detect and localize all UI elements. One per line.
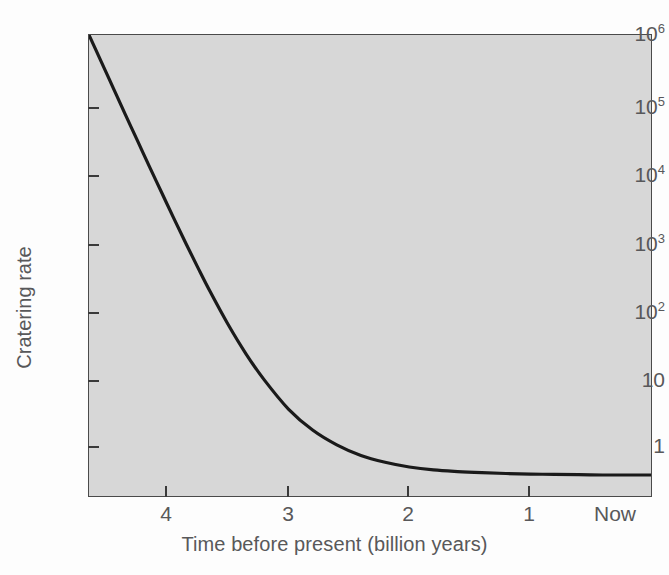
y-axis-title: Cratering rate [13, 198, 36, 418]
y-tick-label-1e2: 102 [585, 301, 669, 322]
y-tick-label-1e6: 106 [585, 23, 669, 44]
y-label-mantissa: 10 [634, 300, 657, 323]
y-label-exponent: 6 [658, 21, 665, 36]
y-tick-label-1e5: 105 [585, 96, 669, 117]
x-tick-label-3: 3 [282, 503, 294, 524]
x-tick-label-4: 4 [160, 503, 172, 524]
y-tick-label-1e4: 104 [585, 164, 669, 185]
y-tick-10 [88, 380, 99, 382]
y-label-mantissa: 10 [634, 163, 657, 186]
x-tick-4 [165, 486, 167, 497]
y-label-mantissa: 10 [634, 232, 657, 255]
y-label-exponent: 2 [658, 299, 665, 314]
curve-svg [89, 35, 651, 496]
x-tick-1 [528, 486, 530, 497]
y-tick-label-1e3: 103 [585, 233, 669, 254]
y-label-mantissa: 10 [642, 368, 665, 391]
x-tick-2 [407, 486, 409, 497]
x-tick-label-1: 1 [523, 503, 535, 524]
cratering-rate-chart: 106 105 104 103 102 10 1 4 3 2 1 Now Tim… [0, 0, 669, 575]
y-tick-label-10: 10 [585, 369, 669, 390]
y-tick-1e4 [88, 175, 99, 177]
y-tick-1e3 [88, 244, 99, 246]
cratering-rate-curve [89, 35, 651, 475]
y-label-mantissa: 10 [634, 22, 657, 45]
y-tick-1e2 [88, 312, 99, 314]
y-label-exponent: 4 [658, 162, 665, 177]
x-tick-label-2: 2 [402, 503, 414, 524]
y-label-mantissa: 1 [653, 434, 665, 457]
plot-area [88, 34, 652, 497]
y-label-mantissa: 10 [634, 95, 657, 118]
y-tick-label-1: 1 [585, 435, 669, 456]
y-label-exponent: 3 [658, 231, 665, 246]
x-tick-label-now: Now [594, 503, 636, 524]
x-tick-3 [287, 486, 289, 497]
y-label-exponent: 5 [658, 94, 665, 109]
y-tick-1 [88, 446, 99, 448]
y-tick-1e5 [88, 107, 99, 109]
x-axis-title: Time before present (billion years) [0, 533, 669, 556]
